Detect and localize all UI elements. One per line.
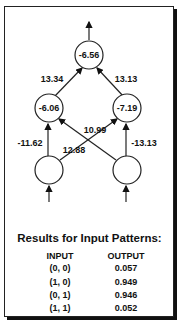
result-input: (1, 0) (40, 277, 80, 287)
input-node-1 (35, 156, 63, 184)
weight-in1-h1: -11.62 (17, 138, 42, 148)
weight-h1-out: 13.34 (41, 74, 64, 84)
result-input: (0, 0) (40, 263, 80, 273)
result-output: 0.052 (104, 303, 148, 313)
input-node-2 (113, 156, 141, 184)
weight-h2-out: 13.13 (115, 74, 138, 84)
results-title: Results for Input Patterns: (0, 232, 179, 244)
result-output: 0.057 (104, 263, 148, 273)
result-output: 0.946 (104, 290, 148, 300)
hidden-node-2-label: -7.19 (117, 103, 138, 113)
result-input: (0, 1) (40, 290, 80, 300)
weight-in2-h2: -13.13 (131, 138, 157, 148)
weight-in1-h2: 12.88 (63, 145, 86, 155)
hidden-node-1-label: -6.06 (39, 103, 60, 113)
weight-in2-h1: 10.99 (84, 125, 107, 135)
result-input: (1, 1) (40, 303, 80, 313)
result-output: 0.949 (104, 277, 148, 287)
output-header: OUTPUT (104, 251, 148, 261)
network-diagram: -6.56 -6.06 -7.19 13.34 13.13 -11.62 -13… (0, 0, 179, 230)
output-node-label: -6.56 (79, 50, 100, 60)
input-header: INPUT (40, 251, 80, 261)
